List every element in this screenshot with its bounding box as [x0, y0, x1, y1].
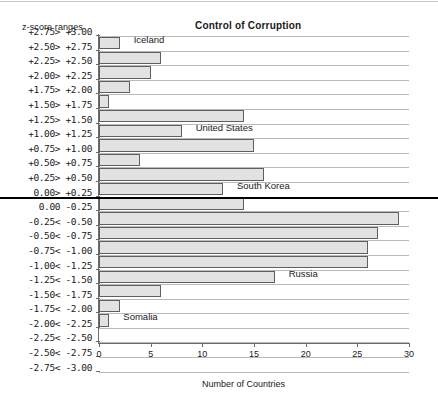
bar-row	[99, 357, 409, 372]
bar	[99, 66, 151, 78]
y-tick-label: -2.75< -3.00	[28, 362, 92, 373]
bar-row	[99, 240, 409, 255]
country-annotation: Iceland	[134, 34, 165, 45]
x-tick-label: 20	[301, 349, 311, 359]
bar	[99, 285, 161, 297]
y-tick-label: +1.75> +2.00	[28, 84, 92, 95]
bar	[99, 52, 161, 64]
bar	[99, 241, 368, 253]
bar-row	[99, 328, 409, 343]
x-tick-mark	[99, 343, 100, 347]
bar-row	[99, 270, 409, 285]
y-tick-label: -0.75< -1.00	[28, 245, 92, 256]
y-tick-label: 0.00 -0.25	[39, 201, 92, 212]
bar-row	[99, 109, 409, 124]
bar	[99, 81, 130, 93]
bar-row	[99, 51, 409, 66]
bar	[99, 212, 399, 224]
x-tick-mark	[357, 343, 358, 347]
bar-row	[99, 80, 409, 95]
grid-line	[99, 80, 409, 81]
bar	[99, 183, 223, 195]
grid-line	[99, 328, 409, 329]
y-tick-label: +1.00> +1.25	[28, 128, 92, 139]
x-tick-mark	[409, 343, 410, 347]
y-tick-label: -2.50< -2.75	[28, 347, 92, 358]
country-annotation: Russia	[289, 268, 318, 279]
zero-divider-line	[0, 197, 438, 199]
y-tick-label: -1.00< -1.25	[28, 260, 92, 271]
grid-line	[99, 94, 409, 95]
bar-chart: Control of Corruption z-score ranges +2.…	[0, 0, 438, 408]
bar	[99, 125, 182, 137]
bar-row	[99, 255, 409, 270]
y-tick-label: -1.50< -1.75	[28, 289, 92, 300]
y-tick-label-row: -2.75< -3.00	[0, 372, 96, 387]
bar	[99, 154, 140, 166]
bar	[99, 95, 109, 107]
x-tick-label: 10	[197, 349, 207, 359]
bar	[99, 110, 244, 122]
y-tick-label: -1.25< -1.50	[28, 274, 92, 285]
y-tick-label: +2.50> +2.75	[28, 41, 92, 52]
x-tick-mark	[254, 343, 255, 347]
bar-row	[99, 138, 409, 153]
country-annotation: United States	[196, 122, 253, 133]
y-tick-label: +0.25> +0.50	[28, 172, 92, 183]
y-tick-label: +1.25> +1.50	[28, 114, 92, 125]
bar	[99, 227, 378, 239]
grid-line	[99, 153, 409, 154]
chart-title: Control of Corruption	[195, 20, 301, 31]
grid-line	[99, 372, 409, 373]
bar-row	[99, 226, 409, 241]
x-tick-label: 25	[352, 349, 362, 359]
x-tick-mark	[202, 343, 203, 347]
bar	[99, 271, 275, 283]
country-annotation: South Korea	[237, 180, 290, 191]
x-tick-mark	[151, 343, 152, 347]
bar-row	[99, 211, 409, 226]
grid-line	[99, 299, 409, 300]
y-tick-label: +2.00> +2.25	[28, 70, 92, 81]
bar	[99, 256, 368, 268]
bar	[99, 300, 120, 312]
bar	[99, 37, 120, 49]
y-axis-tick-labels: +2.75> +3.00+2.50> +2.75+2.25> +2.50+2.0…	[0, 36, 96, 386]
x-tick-label: 5	[148, 349, 153, 359]
x-tick-label: 15	[249, 349, 259, 359]
x-axis-title: Number of Countries	[202, 379, 285, 389]
bar	[99, 314, 109, 326]
y-tick-label: -0.50< -0.75	[28, 230, 92, 241]
y-tick-label: +1.50> +1.75	[28, 99, 92, 110]
bar-row	[99, 153, 409, 168]
bar	[99, 168, 264, 180]
y-tick-label: -2.25< -2.50	[28, 332, 92, 343]
bar	[99, 139, 254, 151]
y-tick-label: +0.50> +0.75	[28, 157, 92, 168]
country-annotation: Somalia	[123, 311, 157, 322]
y-tick-label: -1.75< -2.00	[28, 303, 92, 314]
y-tick-label: -0.25< -0.50	[28, 216, 92, 227]
x-tick-mark	[306, 343, 307, 347]
bar-row	[99, 94, 409, 109]
y-tick-label: +2.75> +3.00	[28, 26, 92, 37]
y-tick-label: +0.75> +1.00	[28, 143, 92, 154]
x-tick-label: 0	[96, 349, 101, 359]
x-tick-label: 30	[404, 349, 414, 359]
y-tick-label: -2.00< -2.25	[28, 318, 92, 329]
chart-page: Control of Corruption z-score ranges +2.…	[0, 0, 438, 408]
bar	[99, 198, 244, 210]
y-tick-label: +2.25> +2.50	[28, 55, 92, 66]
bar-row	[99, 124, 409, 139]
bar-row	[99, 284, 409, 299]
bar-row	[99, 65, 409, 80]
